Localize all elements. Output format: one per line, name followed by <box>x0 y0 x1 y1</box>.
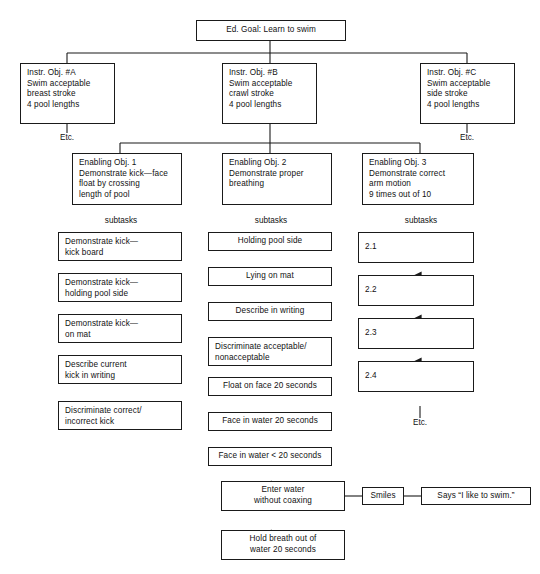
subtask-c2-6[interactable]: Face in water 20 seconds <box>208 412 332 431</box>
instr-obj-c-box[interactable]: Instr. Obj. #C Swim acceptable side stro… <box>420 63 515 124</box>
subtasks-label-col3: subtasks <box>396 216 446 226</box>
hold-breath-box[interactable]: Hold breath out of water 20 seconds <box>221 530 345 560</box>
instr-obj-b-box[interactable]: Instr. Obj. #B Swim acceptable crawl str… <box>222 63 317 124</box>
subtask-c3-4[interactable]: 2.4 <box>358 361 474 392</box>
subtask-c1-4[interactable]: Describe current kick in writing <box>58 355 182 384</box>
goal-label: Ed. Goal: Learn to swim <box>226 25 316 36</box>
subtask-c1-2[interactable]: Demonstrate kick— holding pool side <box>58 273 182 302</box>
subtasks-label-col2: subtasks <box>246 216 296 226</box>
subtask-c2-2[interactable]: Lying on mat <box>208 267 332 286</box>
etc-label-right: Etc. <box>447 133 487 143</box>
subtask-c3-2[interactable]: 2.2 <box>358 275 474 306</box>
subtask-c1-5[interactable]: Discriminate correct/ incorrect kick <box>58 401 182 430</box>
goal-box[interactable]: Ed. Goal: Learn to swim <box>196 20 346 41</box>
subtask-c2-4[interactable]: Discriminate acceptable/ nonacceptable <box>208 337 332 366</box>
subtask-c1-1[interactable]: Demonstrate kick— kick board <box>58 232 182 261</box>
subtask-c2-5[interactable]: Float on face 20 seconds <box>208 377 332 396</box>
enter-water-box[interactable]: Enter water without coaxing <box>221 481 345 511</box>
subtask-c3-1[interactable]: 2.1 <box>358 232 474 263</box>
enabling-obj-2-box[interactable]: Enabling Obj. 2 Demonstrate proper breat… <box>222 153 332 205</box>
says-box[interactable]: Says “I like to swim.” <box>421 487 531 505</box>
subtask-c2-1[interactable]: Holding pool side <box>208 232 332 251</box>
enabling-obj-1-box[interactable]: Enabling Obj. 1 Demonstrate kick—face fl… <box>72 153 182 205</box>
diagram-canvas: Ed. Goal: Learn to swim Instr. Obj. #A S… <box>0 0 540 574</box>
subtask-c3-3[interactable]: 2.3 <box>358 318 474 349</box>
instr-obj-a-box[interactable]: Instr. Obj. #A Swim acceptable breast st… <box>20 63 115 124</box>
enabling-obj-3-box[interactable]: Enabling Obj. 3 Demonstrate correct arm … <box>362 153 474 205</box>
etc-label-bottom-right: Etc. <box>400 418 440 428</box>
subtasks-label-col1: subtasks <box>96 216 146 226</box>
subtask-c2-3[interactable]: Describe in writing <box>208 302 332 321</box>
smiles-box[interactable]: Smiles <box>362 487 404 505</box>
etc-label-left: Etc. <box>47 133 87 143</box>
subtask-c1-3[interactable]: Demonstrate kick— on mat <box>58 314 182 343</box>
subtask-c2-7[interactable]: Face in water < 20 seconds <box>208 447 332 466</box>
